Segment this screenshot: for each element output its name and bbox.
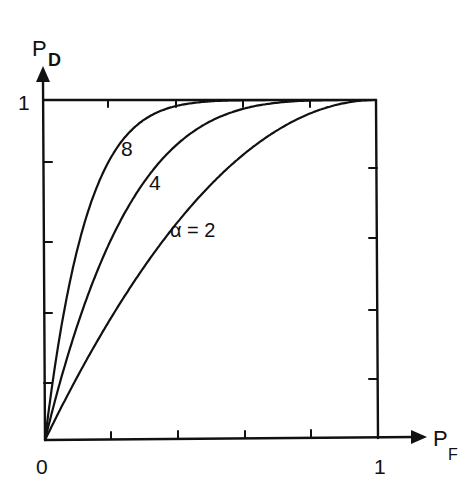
x-axis-label-sub: F	[448, 446, 458, 463]
x-tick-label-0: 0	[36, 455, 48, 478]
y-axis-label-sub: D	[48, 50, 61, 70]
right-border	[376, 100, 378, 438]
x-axis-label: P	[433, 426, 448, 451]
y-axis	[43, 80, 45, 440]
curve-label-2: α = 2	[170, 219, 215, 241]
curve-label-4: 4	[149, 171, 161, 194]
y-tick-label-1: 1	[18, 91, 30, 114]
y-axis-label: P	[32, 36, 47, 61]
curve-label-8: 8	[121, 137, 133, 160]
roc-chart: P D P F 1 0 1 8 4 α = 2	[0, 0, 475, 492]
roc-curves	[45, 100, 376, 440]
x-axis-arrow-icon	[411, 430, 427, 444]
x-tick-label-1: 1	[374, 455, 386, 478]
roc-curve-alpha-2	[45, 100, 376, 440]
x-axis	[45, 437, 415, 440]
roc-curve-alpha-8	[45, 100, 376, 440]
roc-curve-alpha-4	[45, 100, 376, 440]
